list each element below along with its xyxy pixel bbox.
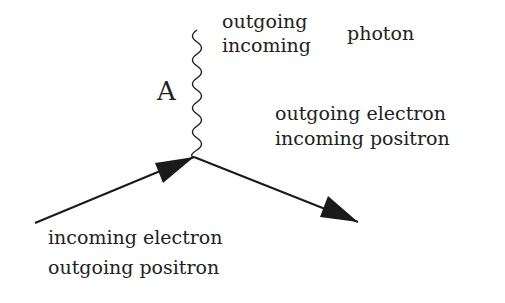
photon-top-line2: incoming: [222, 34, 311, 57]
left-label-line1: incoming electron: [48, 226, 223, 249]
photon-wavy-line: [192, 30, 202, 157]
incoming-arrowhead: [155, 157, 194, 183]
right-label-line2: incoming positron: [275, 127, 450, 150]
left-label-line2: outgoing positron: [48, 256, 219, 279]
right-label-line1: outgoing electron: [275, 102, 446, 125]
photon-top-line1: outgoing: [222, 10, 307, 33]
outgoing-arrowhead: [320, 196, 358, 222]
feynman-vertex-diagram: A outgoing incoming photon outgoing elec…: [0, 0, 505, 303]
photon-name: photon: [347, 22, 414, 45]
photon-field-label: A: [157, 78, 176, 104]
